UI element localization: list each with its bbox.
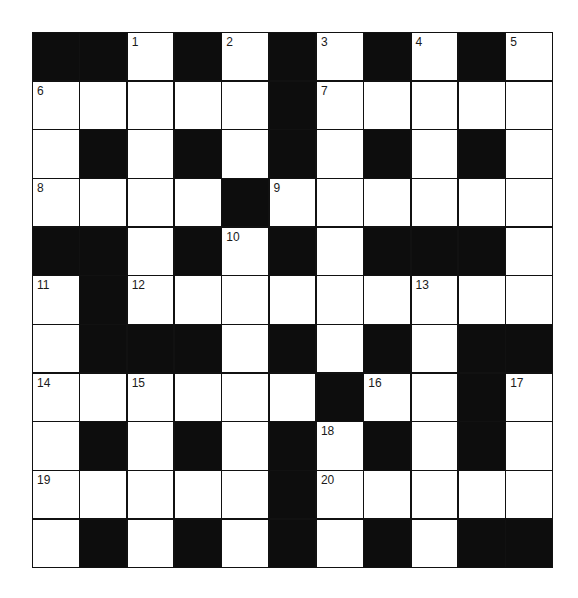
crossword-cell[interactable]: [506, 422, 552, 469]
crossword-cell[interactable]: [364, 276, 410, 323]
black-square: [270, 520, 316, 567]
crossword-cell[interactable]: [128, 520, 174, 567]
crossword-cell[interactable]: [317, 179, 363, 226]
crossword-cell[interactable]: 18: [317, 422, 363, 469]
crossword-cell[interactable]: [33, 520, 79, 567]
crossword-cell[interactable]: [412, 325, 458, 372]
crossword-cell[interactable]: [459, 179, 505, 226]
crossword-cell[interactable]: [175, 276, 221, 323]
crossword-cell[interactable]: 17: [506, 374, 552, 421]
crossword-cell[interactable]: [80, 374, 126, 421]
crossword-cell[interactable]: [175, 179, 221, 226]
crossword-cell[interactable]: 16: [364, 374, 410, 421]
black-square: [364, 228, 410, 275]
crossword-cell[interactable]: [128, 82, 174, 129]
clue-number: 11: [37, 279, 49, 291]
crossword-cell[interactable]: 13: [412, 276, 458, 323]
crossword-cell[interactable]: [33, 130, 79, 177]
clue-number: 19: [37, 474, 50, 486]
crossword-cell[interactable]: [506, 228, 552, 275]
crossword-cell[interactable]: [317, 276, 363, 323]
crossword-cell[interactable]: [80, 179, 126, 226]
crossword-cell[interactable]: [33, 325, 79, 372]
crossword-cell[interactable]: [175, 82, 221, 129]
crossword-cell[interactable]: [506, 179, 552, 226]
crossword-cell[interactable]: [317, 228, 363, 275]
crossword-cell[interactable]: 14: [33, 374, 79, 421]
crossword-cell[interactable]: [222, 325, 268, 372]
crossword-cell[interactable]: [412, 471, 458, 518]
crossword-cell[interactable]: 11: [33, 276, 79, 323]
crossword-cell[interactable]: [412, 82, 458, 129]
black-square: [459, 33, 505, 80]
crossword-cell[interactable]: [364, 82, 410, 129]
clue-number: 10: [226, 231, 239, 243]
crossword-cell[interactable]: [412, 130, 458, 177]
crossword-cell[interactable]: [175, 374, 221, 421]
crossword-cell[interactable]: [222, 471, 268, 518]
crossword-cell[interactable]: [506, 471, 552, 518]
crossword-cell[interactable]: 3: [317, 33, 363, 80]
crossword-cell[interactable]: 12: [128, 276, 174, 323]
black-square: [506, 520, 552, 567]
crossword-cell[interactable]: [222, 422, 268, 469]
crossword-cell[interactable]: [80, 82, 126, 129]
black-square: [459, 422, 505, 469]
crossword-cell[interactable]: [317, 325, 363, 372]
black-square: [80, 33, 126, 80]
crossword-cell[interactable]: 4: [412, 33, 458, 80]
crossword-cell[interactable]: [128, 179, 174, 226]
crossword-cell[interactable]: [175, 471, 221, 518]
crossword-cell[interactable]: [459, 82, 505, 129]
crossword-cell[interactable]: 1: [128, 33, 174, 80]
clue-number: 16: [368, 377, 381, 389]
clue-number: 7: [321, 85, 328, 97]
crossword-cell[interactable]: [317, 520, 363, 567]
black-square: [175, 228, 221, 275]
crossword-cell[interactable]: [506, 130, 552, 177]
crossword-cell[interactable]: [128, 228, 174, 275]
black-square: [270, 228, 316, 275]
crossword-cell[interactable]: [222, 130, 268, 177]
crossword-cell[interactable]: 7: [317, 82, 363, 129]
black-square: [175, 520, 221, 567]
black-square: [80, 276, 126, 323]
crossword-cell[interactable]: [128, 422, 174, 469]
crossword-cell[interactable]: [459, 471, 505, 518]
black-square: [412, 228, 458, 275]
crossword-cell[interactable]: [222, 374, 268, 421]
crossword-cell[interactable]: [128, 130, 174, 177]
crossword-cell[interactable]: [364, 179, 410, 226]
crossword-cell[interactable]: [412, 179, 458, 226]
crossword-cell[interactable]: 5: [506, 33, 552, 80]
crossword-cell[interactable]: [33, 422, 79, 469]
crossword-cell[interactable]: [222, 520, 268, 567]
crossword-cell[interactable]: 19: [33, 471, 79, 518]
crossword-cell[interactable]: [506, 82, 552, 129]
crossword-cell[interactable]: [412, 422, 458, 469]
crossword-grid: 1234567891011121314151617181920: [32, 32, 553, 568]
crossword-cell[interactable]: 8: [33, 179, 79, 226]
crossword-cell[interactable]: [364, 471, 410, 518]
crossword-cell[interactable]: [80, 471, 126, 518]
crossword-cell[interactable]: 2: [222, 33, 268, 80]
crossword-cell[interactable]: [317, 130, 363, 177]
crossword-cell[interactable]: [222, 276, 268, 323]
black-square: [317, 374, 363, 421]
crossword-cell[interactable]: 9: [270, 179, 316, 226]
crossword-cell[interactable]: 15: [128, 374, 174, 421]
crossword-cell[interactable]: [128, 471, 174, 518]
crossword-cell[interactable]: [270, 374, 316, 421]
crossword-cell[interactable]: 20: [317, 471, 363, 518]
crossword-cell[interactable]: [270, 276, 316, 323]
black-square: [459, 228, 505, 275]
crossword-cell[interactable]: 10: [222, 228, 268, 275]
crossword-cell[interactable]: [412, 520, 458, 567]
black-square: [459, 325, 505, 372]
crossword-cell[interactable]: [222, 82, 268, 129]
crossword-cell[interactable]: [412, 374, 458, 421]
crossword-cell[interactable]: 6: [33, 82, 79, 129]
black-square: [270, 130, 316, 177]
crossword-cell[interactable]: [459, 276, 505, 323]
crossword-cell[interactable]: [506, 276, 552, 323]
